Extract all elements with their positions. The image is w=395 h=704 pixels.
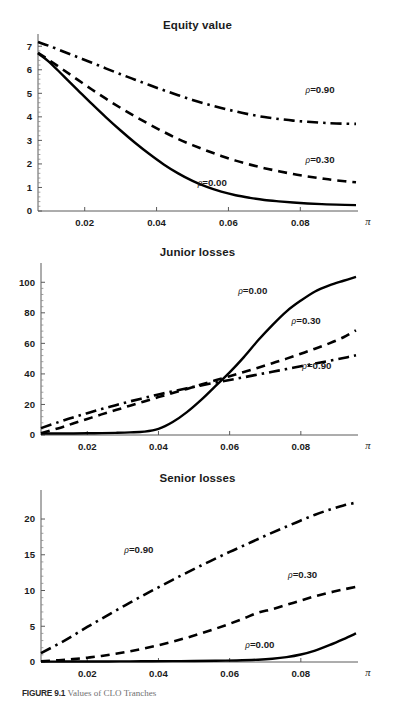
y-tick-label: 100 — [19, 277, 35, 288]
y-tick-label: 0 — [30, 656, 35, 667]
y-tick-label: 80 — [24, 307, 35, 318]
x-tick-label: 0.06 — [219, 217, 238, 228]
y-tick-label: 20 — [24, 513, 35, 524]
series-label: ρ=0.30 — [304, 154, 334, 165]
x-tick-label: 0.08 — [291, 668, 310, 679]
series-label: ρ=0.30 — [287, 569, 317, 580]
panel-title-junior: Junior losses — [0, 246, 395, 258]
series-label: ρ=0.90 — [123, 544, 153, 555]
y-tick-label: 1 — [27, 182, 33, 193]
y-tick-label: 7 — [27, 41, 32, 52]
panel-equity-value: Equity value 012345670.020.040.060.08πρ=… — [0, 0, 395, 232]
series-label: ρ=0.00 — [237, 285, 267, 296]
x-tick-label: 0.04 — [149, 668, 168, 679]
series-label: ρ=0.00 — [197, 177, 227, 188]
series-line-0.00 — [41, 277, 356, 434]
x-axis-label: π — [365, 440, 371, 451]
y-tick-label: 3 — [27, 135, 32, 146]
series-label: ρ=0.90 — [301, 360, 331, 371]
caption-label: FIGURE 9.1 — [22, 688, 65, 698]
y-tick-label: 60 — [24, 338, 35, 349]
caption-text: Values of CLO Tranches — [68, 688, 157, 698]
y-tick-label: 4 — [27, 111, 33, 122]
panel-senior-losses: Senior losses 051015200.020.040.060.08πρ… — [0, 458, 395, 690]
series-line-0.30 — [41, 330, 356, 433]
series-line-0.30 — [41, 587, 356, 661]
x-axis-label: π — [365, 216, 371, 227]
y-tick-label: 40 — [24, 368, 35, 379]
x-tick-label: 0.04 — [149, 441, 168, 452]
x-tick-label: 0.02 — [78, 668, 97, 679]
y-tick-label: 10 — [24, 585, 35, 596]
y-tick-label: 15 — [24, 549, 35, 560]
y-tick-label: 0 — [30, 429, 35, 440]
y-tick-label: 5 — [30, 621, 36, 632]
series-label: ρ=0.90 — [304, 84, 334, 95]
y-tick-label: 6 — [27, 64, 32, 75]
x-tick-label: 0.02 — [75, 217, 94, 228]
y-tick-label: 2 — [27, 158, 32, 169]
figure-container: Equity value 012345670.020.040.060.08πρ=… — [0, 0, 395, 704]
y-tick-label: 5 — [27, 88, 33, 99]
y-tick-label: 0 — [27, 205, 32, 216]
x-tick-label: 0.06 — [220, 441, 239, 452]
chart-senior-losses: 051015200.020.040.060.08πρ=0.00ρ=0.30ρ=0… — [0, 458, 395, 690]
y-tick-label: 20 — [24, 399, 35, 410]
chart-junior-losses: 0204060801000.020.040.060.08πρ=0.00ρ=0.3… — [0, 231, 395, 463]
x-tick-label: 0.06 — [220, 668, 239, 679]
panel-title-equity: Equity value — [0, 19, 395, 31]
series-label: ρ=0.30 — [291, 315, 321, 326]
panel-junior-losses: Junior losses 0204060801000.020.040.060.… — [0, 231, 395, 463]
figure-caption: FIGURE 9.1 Values of CLO Tranches — [22, 688, 382, 698]
x-tick-label: 0.08 — [291, 441, 310, 452]
series-label: ρ=0.00 — [244, 639, 274, 650]
x-tick-label: 0.08 — [291, 217, 310, 228]
panel-title-senior: Senior losses — [0, 472, 395, 484]
chart-equity-value: 012345670.020.040.060.08πρ=0.00ρ=0.30ρ=0… — [0, 0, 395, 232]
x-axis-label: π — [365, 667, 371, 678]
x-tick-label: 0.04 — [147, 217, 166, 228]
x-tick-label: 0.02 — [78, 441, 97, 452]
